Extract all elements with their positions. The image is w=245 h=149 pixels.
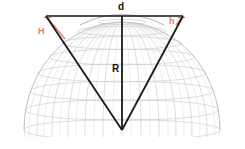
label-d: d (118, 2, 124, 12)
label-h: h (169, 17, 175, 26)
label-H: H (38, 27, 45, 36)
label-R: R (112, 64, 119, 74)
diagram-canvas (0, 0, 245, 149)
sphere-geometry-figure: d R H h (0, 0, 245, 149)
